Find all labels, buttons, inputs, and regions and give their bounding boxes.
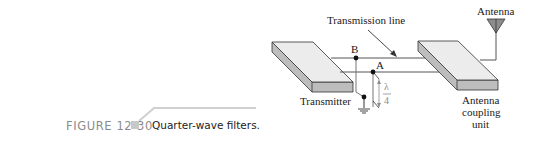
caption-marker-icon bbox=[131, 121, 139, 129]
label-point-a: A bbox=[376, 59, 384, 71]
ground-icon bbox=[358, 109, 370, 113]
label-four: 4 bbox=[384, 95, 389, 106]
label-antenna: Antenna bbox=[477, 5, 514, 17]
label-point-b: B bbox=[351, 43, 358, 55]
label-lambda: λ bbox=[384, 81, 389, 92]
antenna bbox=[480, 19, 505, 60]
point-a-dot bbox=[371, 70, 376, 75]
label-transmitter: Transmitter bbox=[300, 95, 351, 107]
transmitter-block bbox=[272, 42, 353, 92]
label-coupling-unit-line1: Antenna bbox=[462, 94, 499, 106]
label-coupling-unit-line2: coupling bbox=[462, 106, 501, 118]
stub-junction-dot bbox=[362, 95, 367, 100]
figure-number: FIGURE 12-30 bbox=[66, 119, 153, 133]
point-b-dot bbox=[354, 56, 359, 61]
label-coupling-unit-line3: unit bbox=[472, 118, 489, 130]
transmission-line-pointer bbox=[368, 30, 397, 57]
label-transmission-line: Transmission line bbox=[327, 14, 405, 26]
transmission-line bbox=[331, 58, 443, 72]
antenna-coupling-unit-block bbox=[418, 41, 498, 90]
figure-caption: Quarter-wave filters. bbox=[152, 119, 260, 131]
